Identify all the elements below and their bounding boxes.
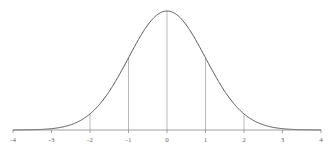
- x-tick-label: 1: [204, 136, 208, 144]
- sigma-vertical-lines: [90, 11, 244, 130]
- x-tick-label: -2: [87, 136, 93, 144]
- x-tick-label: 3: [281, 136, 285, 144]
- x-tick-label: 0: [165, 136, 169, 144]
- x-tick-label: 4: [319, 136, 323, 144]
- normal-distribution-chart: -4-3-2-101234: [0, 0, 329, 155]
- x-tick-label: 2: [242, 136, 246, 144]
- x-tick-label: -4: [10, 136, 16, 144]
- x-tick-label: -1: [126, 136, 132, 144]
- x-tick-label: -3: [49, 136, 55, 144]
- x-axis-ticks: -4-3-2-101234: [10, 130, 323, 144]
